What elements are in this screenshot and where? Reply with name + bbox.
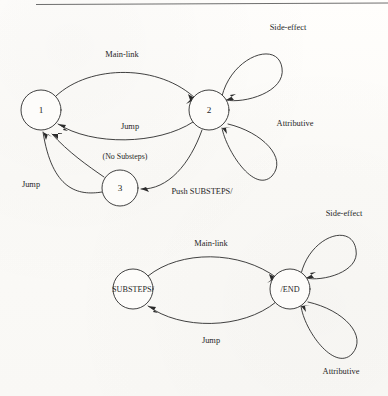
edge-main-link-label: Main-link (105, 50, 139, 59)
self-loop-attributive-bottom-label: Attributive (323, 367, 360, 376)
edge-jump-2-to-1-label: Jump (121, 122, 139, 131)
edge-jump-bottom-path (148, 302, 276, 324)
self-loop-side-effect: Side-effect (222, 23, 307, 101)
edge-jump-2-to-1: Jump (58, 122, 193, 140)
edge-push-substeps-label: Push SUBSTEPS/ (171, 187, 233, 196)
page-top-rule (36, 3, 388, 5)
edge-jump-bottom: Jump (148, 302, 276, 345)
edge-push-substeps: Push SUBSTEPS/ (141, 130, 233, 196)
node-3-label: 3 (118, 183, 123, 193)
edge-jump-bottom-label: Jump (202, 336, 220, 345)
self-loop-side-effect-bottom: Side-effect (301, 209, 363, 279)
self-loop-side-effect-bottom-path (301, 235, 356, 279)
node-2-label: 2 (207, 105, 212, 115)
self-loop-attributive: Attributive (222, 119, 314, 180)
node-1[interactable]: 1 (21, 90, 61, 130)
self-loop-attributive-bottom-path (301, 302, 357, 358)
self-loop-attributive-path (222, 124, 277, 180)
self-loop-attributive-bottom: Attributive (301, 302, 360, 376)
edge-jump-3-to-1-label: Jump (22, 180, 40, 189)
bottom-diagram: Main-link Jump Side-effect Attributive (112, 209, 363, 376)
self-loop-side-effect-label: Side-effect (270, 23, 307, 32)
diagram-page: Main-link Jump (No Substeps) Jump (0, 0, 388, 396)
edge-main-link-path (56, 72, 196, 99)
node-3[interactable]: 3 (102, 170, 138, 206)
top-diagram: Main-link Jump (No Substeps) Jump (21, 23, 314, 206)
self-loop-side-effect-path (222, 54, 282, 101)
edge-jump-bottom-arrowhead (148, 306, 158, 313)
self-loop-attributive-label: Attributive (277, 119, 314, 128)
node-end-label: /END (280, 285, 299, 294)
node-2[interactable]: 2 (189, 90, 229, 130)
node-substeps[interactable]: SUBSTEPS/ (112, 269, 155, 309)
edge-jump-3-to-1-path (43, 132, 102, 193)
edge-main-link-bottom: Main-link (148, 239, 277, 283)
node-substeps-label: SUBSTEPS/ (112, 285, 155, 294)
edge-main-link-bottom-path (148, 257, 277, 278)
state-diagram-canvas: Main-link Jump (No Substeps) Jump (0, 0, 388, 396)
edge-jump-3-to-1: Jump (22, 132, 102, 193)
edge-main-link: Main-link (56, 50, 196, 104)
node-1-label: 1 (39, 105, 44, 115)
self-loop-side-effect-bottom-arrowhead (306, 272, 316, 278)
node-end[interactable]: /END (270, 269, 310, 309)
edge-main-link-bottom-label: Main-link (194, 239, 228, 248)
self-loop-side-effect-arrowhead (226, 94, 236, 100)
edge-no-substeps-path (52, 134, 104, 177)
edge-push-substeps-path (141, 130, 202, 189)
edge-no-substeps-label: (No Substeps) (103, 152, 148, 161)
self-loop-side-effect-bottom-label: Side-effect (326, 209, 363, 218)
